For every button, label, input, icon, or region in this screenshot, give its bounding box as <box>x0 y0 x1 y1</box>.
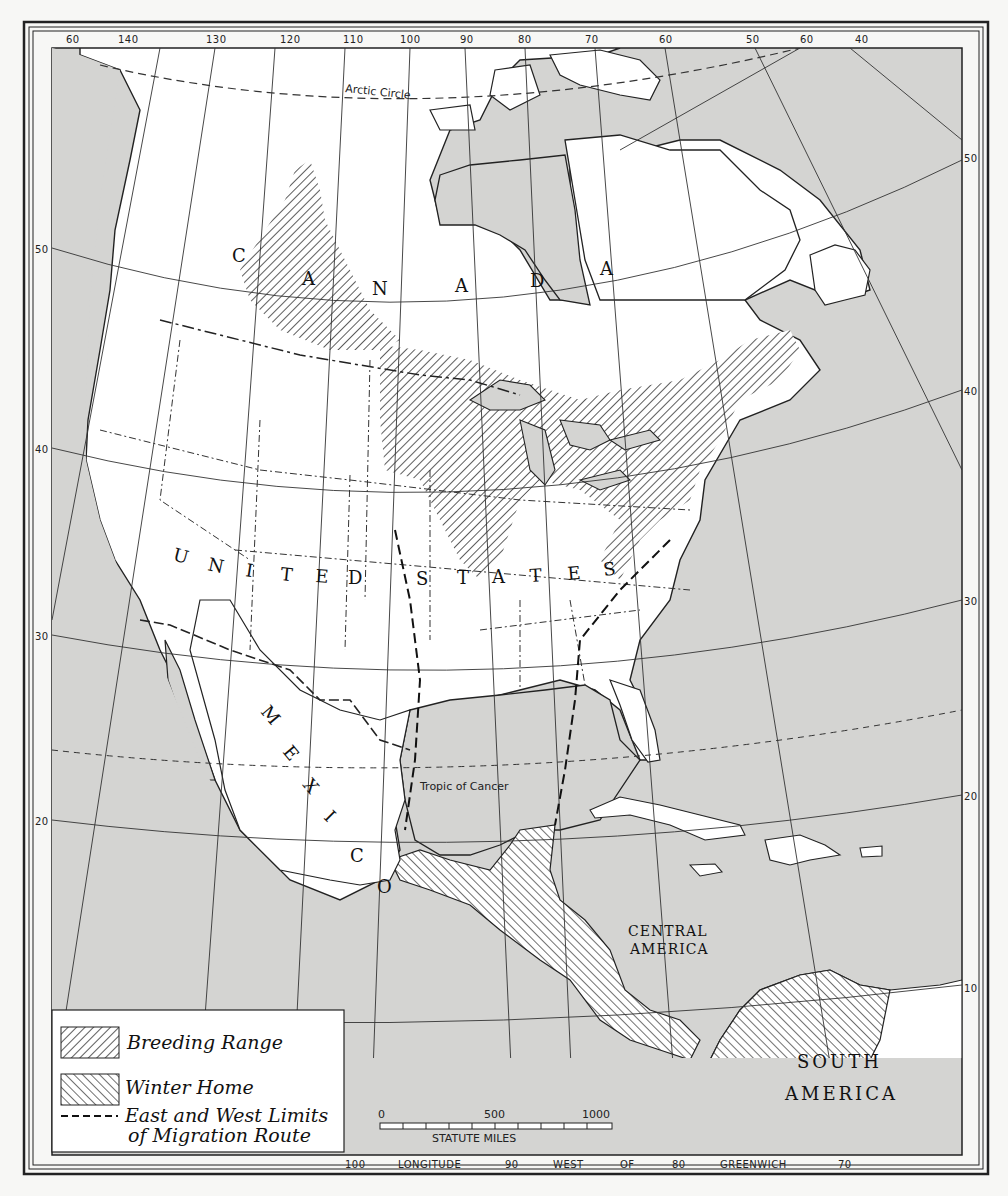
label-letter: T <box>280 563 294 585</box>
legend-limits-label-1: East and West Limits <box>124 1104 328 1126</box>
lat-label: 30 <box>964 596 978 607</box>
legend-winter-label: Winter Home <box>125 1076 254 1098</box>
legend-breeding-swatch <box>61 1027 119 1058</box>
lon-label: 60 <box>800 34 814 45</box>
label-letter: A <box>599 258 614 279</box>
lon-label: 40 <box>855 34 869 45</box>
scale-tick-500: 500 <box>484 1108 505 1121</box>
label-letter: D <box>530 270 544 291</box>
lon-label: 80 <box>518 34 532 45</box>
lon-label: 110 <box>343 34 364 45</box>
label-letter: A <box>454 275 469 296</box>
label-letter: S <box>416 568 428 589</box>
label-central-america-1: CENTRAL <box>628 923 707 939</box>
legend-breeding-label: Breeding Range <box>126 1031 283 1053</box>
scale-tick-1000: 1000 <box>582 1108 610 1121</box>
lat-label: 50 <box>35 244 49 255</box>
lat-label: 50 <box>964 153 978 164</box>
lat-label: 40 <box>35 444 49 455</box>
lon-axis-word: LONGITUDE <box>398 1159 461 1170</box>
lat-label: 30 <box>35 631 49 642</box>
lon-axis-word: GREENWICH <box>720 1159 787 1170</box>
legend: Breeding Range Winter Home East and West… <box>52 1010 344 1152</box>
map-frame: 60 140 130 120 110 100 90 80 70 60 50 60… <box>0 0 1008 1196</box>
lon-label: 90 <box>460 34 474 45</box>
lon-axis-word: WEST <box>553 1159 584 1170</box>
map-svg: 60 140 130 120 110 100 90 80 70 60 50 60… <box>0 0 1008 1196</box>
legend-winter-swatch <box>61 1074 119 1105</box>
lat-label: 10 <box>964 983 978 994</box>
label-letter: E <box>315 565 330 587</box>
lon-label: 90 <box>505 1159 519 1170</box>
lat-label: 40 <box>964 386 978 397</box>
lon-label: 120 <box>280 34 301 45</box>
lon-label: 70 <box>585 34 599 45</box>
lon-label: 60 <box>66 34 80 45</box>
legend-limits-label-2: of Migration Route <box>128 1124 311 1146</box>
label-letter: N <box>372 278 388 299</box>
lon-label: 100 <box>400 34 421 45</box>
tropic-of-cancer-label: Tropic of Cancer <box>419 780 509 793</box>
lon-label: 140 <box>118 34 139 45</box>
scale-tick-0: 0 <box>378 1108 385 1121</box>
lon-label: 80 <box>672 1159 686 1170</box>
label-letter: C <box>350 845 364 866</box>
label-south-america-1: SOUTH <box>797 1051 882 1072</box>
left-latitude-labels: 50 40 30 20 <box>35 244 49 827</box>
label-letter: A <box>491 566 506 587</box>
label-letter: A <box>301 268 316 289</box>
label-letter: S <box>602 558 617 580</box>
label-letter: D <box>348 567 362 588</box>
label-letter: T <box>457 567 469 588</box>
label-letter: T <box>529 564 542 586</box>
scale-unit: STATUTE MILES <box>432 1132 516 1145</box>
puerto-rico <box>860 846 882 857</box>
lon-label: 70 <box>838 1159 852 1170</box>
label-letter: E <box>567 562 582 584</box>
lon-label: 130 <box>206 34 227 45</box>
lat-label: 20 <box>35 816 49 827</box>
lon-label: 100 <box>345 1159 366 1170</box>
top-longitude-labels: 60 140 130 120 110 100 90 80 70 60 50 60… <box>66 34 869 45</box>
label-south-america-2: AMERICA <box>784 1083 898 1104</box>
label-letter: C <box>232 245 246 266</box>
right-latitude-labels: 50 40 30 20 10 <box>964 153 978 994</box>
label-central-america-2: AMERICA <box>629 941 709 957</box>
lon-axis-word: OF <box>620 1159 635 1170</box>
lon-label: 50 <box>746 34 760 45</box>
label-letter: O <box>377 876 392 897</box>
lat-label: 20 <box>964 791 978 802</box>
lon-label: 60 <box>659 34 673 45</box>
